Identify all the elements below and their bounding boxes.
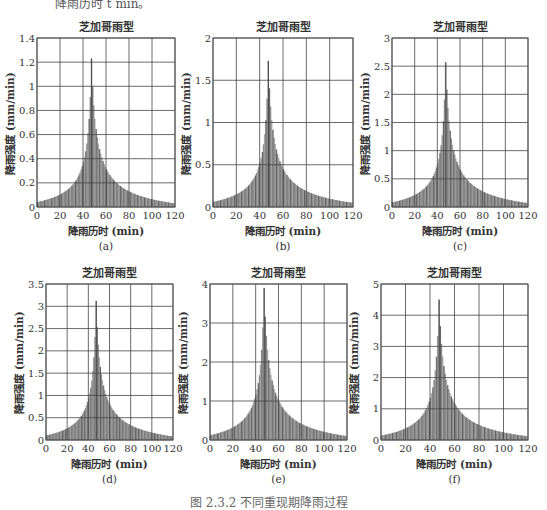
- svg-text:20: 20: [399, 443, 412, 454]
- y-axis-label: 降雨强度 (mm/min): [346, 308, 361, 418]
- svg-text:1: 1: [373, 403, 379, 414]
- svg-text:5: 5: [373, 279, 379, 290]
- svg-text:2: 2: [373, 372, 379, 383]
- x-axis-label: 降雨历时 (min): [381, 456, 528, 471]
- svg-text:80: 80: [473, 443, 486, 454]
- svg-text:40: 40: [424, 443, 437, 454]
- svg-text:120: 120: [518, 443, 537, 454]
- chart-title: 芝加哥雨型: [381, 264, 528, 280]
- svg-text:4: 4: [373, 310, 379, 321]
- svg-text:0: 0: [373, 435, 379, 446]
- svg-text:60: 60: [448, 443, 461, 454]
- svg-text:3: 3: [373, 341, 379, 352]
- figure-caption: 图 2.3.2 不同重现期降雨过程: [190, 493, 348, 510]
- subfigure-label: (f): [381, 473, 528, 485]
- svg-text:100: 100: [494, 443, 513, 454]
